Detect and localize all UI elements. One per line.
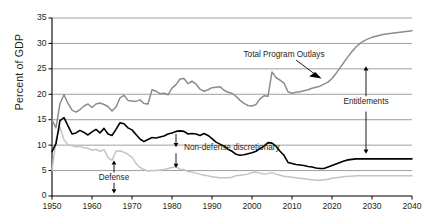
non-defense-discretionary-label: Non-defense discretionary [184,143,280,152]
x-tick-label-2010: 2010 [272,202,312,211]
x-tick-label-1980: 1980 [152,202,192,211]
x-tick-label-2020: 2020 [312,202,352,211]
total-program-outlays-arrowhead [309,72,321,79]
y-tick-label-0: 0 [25,191,47,200]
arrowhead-up [364,66,369,70]
series-line-total-program-outlays [52,31,412,128]
x-tick-label-1990: 1990 [192,202,232,211]
arrowhead-down [364,150,369,154]
y-tick-label-10: 10 [25,141,47,150]
x-tick-label-1970: 1970 [112,202,152,211]
y-tick-label-5: 5 [25,166,47,175]
y-tick-label-20: 20 [25,90,47,99]
x-tick-label-2040: 2040 [392,202,426,211]
x-tick-label-2000: 2000 [232,202,272,211]
entitlements-label: Entitlements [343,97,388,106]
y-tick-label-30: 30 [25,39,47,48]
defense-label: Defense [99,173,130,182]
x-tick-label-2030: 2030 [352,202,392,211]
total-program-outlays-label: Total Program Outlays [244,50,325,59]
arrowhead-down [112,189,117,193]
x-tick-label-1960: 1960 [72,202,112,211]
y-tick-label-15: 15 [25,115,47,124]
y-tick-label-25: 25 [25,64,47,73]
x-tick-label-1950: 1950 [32,202,72,211]
y-tick-label-35: 35 [25,13,47,22]
